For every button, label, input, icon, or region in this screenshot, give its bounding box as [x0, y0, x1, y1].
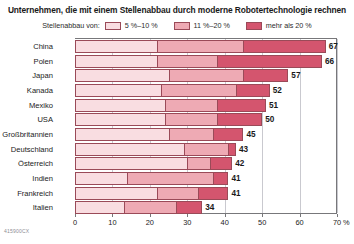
- bar-value-label: 43: [239, 143, 248, 156]
- bar-value-label: 67: [329, 40, 338, 53]
- category-label: Polen: [0, 55, 53, 68]
- bar-row: Italien34: [75, 201, 336, 214]
- legend-item-2: mehr als 20 %: [246, 21, 312, 30]
- bar-value-label: 42: [235, 157, 244, 170]
- stacked-bar[interactable]: [75, 55, 322, 68]
- legend-label-0: 5 %–10 %: [125, 21, 158, 30]
- category-label: Österreich: [0, 157, 53, 170]
- bar-value-label: 52: [273, 84, 282, 97]
- bar-segment: [176, 201, 202, 214]
- bar-segment: [75, 172, 127, 185]
- axis-tick: [337, 214, 338, 217]
- bar-segment: [169, 69, 244, 82]
- axis-tick: [262, 214, 263, 217]
- bar-value-label: 50: [265, 113, 274, 126]
- bar-segment: [169, 128, 214, 141]
- legend-caption: Stellenabbau von:: [42, 21, 100, 30]
- legend-item-1: 11 %–20 %: [174, 21, 230, 30]
- bar-segment: [75, 84, 161, 97]
- stacked-bar[interactable]: [75, 113, 262, 126]
- stacked-bar[interactable]: [75, 143, 236, 156]
- bar-segment: [75, 113, 165, 126]
- bar-segment: [75, 201, 124, 214]
- legend-item-0: 5 %–10 %: [105, 21, 158, 30]
- source-code: 415900CX: [4, 228, 29, 234]
- bar-segment: [236, 84, 270, 97]
- legend-swatch-icon-0: [105, 22, 121, 30]
- bar-segment: [165, 99, 217, 112]
- bar-segment: [217, 113, 262, 126]
- chart-title: Unternehmen, die mit einem Stellenabbau …: [0, 5, 354, 15]
- bar-row: Mexiko51: [75, 99, 336, 112]
- bar-value-label: 34: [205, 201, 214, 214]
- legend-label-2: mehr als 20 %: [266, 21, 312, 30]
- bar-value-label: 41: [231, 172, 240, 185]
- axis-tick: [75, 214, 76, 217]
- stacked-bar[interactable]: [75, 99, 266, 112]
- x-axis: 010203040506070%: [75, 214, 337, 232]
- stacked-bar[interactable]: [75, 187, 228, 200]
- bar-segment: [75, 128, 169, 141]
- bar-segment: [243, 69, 288, 82]
- axis-tick: [300, 214, 301, 217]
- category-label: Indien: [0, 172, 53, 185]
- bar-segment: [124, 201, 176, 214]
- bar-segment: [217, 99, 266, 112]
- chart-legend: Stellenabbau von: 5 %–10 % 11 %–20 % meh…: [0, 21, 354, 30]
- bar-segment: [165, 113, 217, 126]
- stacked-bar[interactable]: [75, 40, 326, 53]
- gridline-70: [337, 39, 338, 213]
- bar-segment: [75, 143, 184, 156]
- category-label: Mexiko: [0, 99, 53, 112]
- bar-rows: China67Polen66Japan57Kanada52Mexiko51USA…: [75, 39, 336, 213]
- bar-segment: [198, 187, 228, 200]
- bar-row: Indien41: [75, 172, 336, 185]
- bar-row: Kanada52: [75, 84, 336, 97]
- bar-value-label: 51: [269, 99, 278, 112]
- bar-segment: [75, 40, 157, 53]
- axis-tick: [112, 214, 113, 217]
- bar-segment: [75, 55, 157, 68]
- stacked-bar[interactable]: [75, 157, 232, 170]
- bar-segment: [217, 55, 322, 68]
- legend-swatch-icon-1: [174, 22, 190, 30]
- bar-row: Österreich42: [75, 157, 336, 170]
- bar-segment: [75, 69, 169, 82]
- category-label: Großbritannien: [0, 128, 53, 141]
- bar-value-label: 41: [231, 187, 240, 200]
- legend-label-1: 11 %–20 %: [194, 21, 230, 30]
- bar-segment: [127, 172, 213, 185]
- bar-row: Frankreich41: [75, 187, 336, 200]
- bar-segment: [75, 187, 157, 200]
- axis-tick-label: 40: [221, 218, 229, 227]
- stacked-bar[interactable]: [75, 84, 270, 97]
- bar-segment: [187, 157, 209, 170]
- bar-segment: [157, 187, 198, 200]
- axis-tick-label: 60: [295, 218, 303, 227]
- bar-segment: [161, 84, 236, 97]
- axis-tick: [187, 214, 188, 217]
- category-label: Frankreich: [0, 187, 53, 200]
- category-label: Kanada: [0, 84, 53, 97]
- axis-tick-label: 20: [146, 218, 154, 227]
- axis-tick-label: 10: [108, 218, 116, 227]
- stacked-bar[interactable]: [75, 201, 202, 214]
- bar-segment: [75, 157, 187, 170]
- bar-segment: [157, 55, 217, 68]
- axis-tick-label: 70: [333, 218, 341, 227]
- legend-swatch-icon-2: [246, 22, 262, 30]
- axis-tick: [225, 214, 226, 217]
- bar-row: Japan57: [75, 69, 336, 82]
- bar-segment: [213, 172, 228, 185]
- axis-tick-label: 30: [183, 218, 191, 227]
- stacked-bar[interactable]: [75, 128, 243, 141]
- bar-value-label: 66: [325, 55, 334, 68]
- axis-unit-label: %: [343, 218, 350, 227]
- category-label: Deutschland: [0, 143, 53, 156]
- stacked-bar[interactable]: [75, 69, 288, 82]
- axis-tick: [150, 214, 151, 217]
- bar-segment: [210, 157, 232, 170]
- category-label: China: [0, 40, 53, 53]
- bar-row: China67: [75, 40, 336, 53]
- stacked-bar[interactable]: [75, 172, 228, 185]
